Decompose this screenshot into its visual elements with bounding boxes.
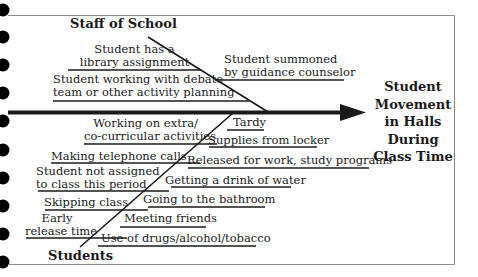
cause-bathroom: Going to the bathroom bbox=[143, 193, 275, 206]
cause-drugs-alcohol-tobacco: Use of drugs/alcohol/tobacco bbox=[101, 232, 271, 245]
cause-debate-team: Student working with debate team or othe… bbox=[53, 73, 213, 99]
cause-not-assigned: Student not assigned to class this perio… bbox=[36, 165, 144, 191]
cause-released-work-study: Released for work, study programs bbox=[187, 154, 392, 167]
cause-skipping-class: Skipping class bbox=[44, 196, 118, 209]
cause-meeting-friends: Meeting friends bbox=[124, 212, 217, 225]
cause-early-release: Early release time bbox=[25, 212, 89, 238]
fishbone-diagram: Staff of School Students Student has a l… bbox=[0, 0, 478, 277]
cause-drink-of-water: Getting a drink of water bbox=[165, 174, 306, 187]
category-label-staff: Staff of School bbox=[70, 17, 177, 30]
cause-tardy: Tardy bbox=[233, 116, 266, 129]
cause-extra-curricular: Working on extra/ co-curricular activiti… bbox=[84, 117, 198, 143]
cause-telephone-calls: Making telephone calls bbox=[51, 150, 175, 163]
category-label-students: Students bbox=[48, 249, 113, 262]
cause-library-assignment: Student has a library assignment bbox=[68, 43, 201, 69]
cause-summoned-by-counselor: Student summoned by guidance counselor bbox=[224, 53, 355, 79]
binder-holes bbox=[0, 4, 10, 269]
cause-supplies-from-locker: Supplies from locker bbox=[208, 134, 329, 147]
effect-label: Student Movement in Halls During Class T… bbox=[372, 78, 454, 166]
